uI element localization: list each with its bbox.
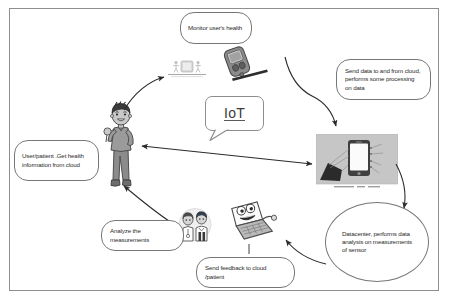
laptop-character-illustration xyxy=(227,201,277,243)
callout-datacenter-label: Datacenter, performs data analysis on me… xyxy=(342,230,412,255)
diagram-canvas: Monitor user's health Send data to and f… xyxy=(0,0,450,301)
callout-user-get-info-label: User/patient .Get health information fro… xyxy=(22,152,91,168)
callout-analyze-measurements[interactable]: Analyze the measurements xyxy=(101,220,184,251)
activity-tracker-icon xyxy=(167,59,207,81)
glucose-meter-illustration xyxy=(222,45,270,81)
callout-analyze-measurements-label: Analyze the measurements xyxy=(110,227,175,243)
callout-send-data-cloud[interactable]: Send data to and from cloud, performs so… xyxy=(336,59,431,100)
callout-user-get-info[interactable]: User/patient .Get health information fro… xyxy=(14,140,99,181)
callout-send-data-cloud-label: Send data to and from cloud, performs so… xyxy=(345,67,422,92)
callout-monitor-health[interactable]: Monitor user's health xyxy=(180,12,252,44)
callout-monitor-health-label: Monitor user's health xyxy=(188,24,244,32)
iot-label: IoT xyxy=(224,106,245,121)
callout-send-feedback-label: Send feedback to cloud /patient xyxy=(205,264,286,280)
iot-speech-bubble: IoT xyxy=(205,96,264,131)
callout-send-feedback[interactable]: Send feedback to cloud /patient xyxy=(196,257,295,288)
user-patient-illustration xyxy=(100,100,144,192)
smartphone-cloud-photo xyxy=(316,134,398,191)
callout-datacenter[interactable]: Datacenter, performs data analysis on me… xyxy=(325,202,429,282)
